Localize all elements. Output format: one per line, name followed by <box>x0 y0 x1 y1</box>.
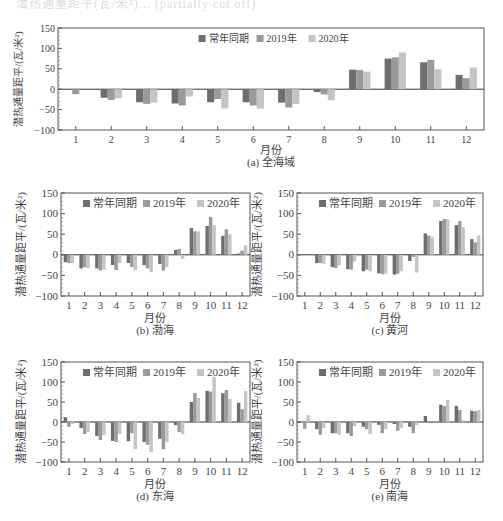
bar <box>177 249 180 255</box>
bar <box>162 422 165 449</box>
bar <box>149 255 152 272</box>
bar <box>303 422 306 429</box>
y-tick-label: 0 <box>289 248 295 260</box>
legend-swatch <box>143 200 150 207</box>
bar <box>212 377 215 422</box>
bar <box>181 422 184 434</box>
bar <box>365 422 368 429</box>
x-tick-label: 3 <box>144 134 149 145</box>
legend-swatch <box>199 35 206 42</box>
bar <box>205 226 208 255</box>
bar <box>353 422 356 426</box>
bar <box>446 219 449 254</box>
bar <box>396 255 399 274</box>
bar <box>225 390 228 422</box>
bar <box>314 89 321 92</box>
y-tick-label: 150 <box>42 187 59 199</box>
bar <box>237 254 240 255</box>
y-tick-label: 150 <box>278 187 295 199</box>
bar <box>136 89 143 102</box>
x-tick-label: 1 <box>302 465 308 477</box>
x-tick-label: 10 <box>439 465 451 477</box>
legend-label: 2020年 <box>443 196 476 209</box>
bar <box>244 391 247 422</box>
bar <box>306 415 309 422</box>
bar <box>385 59 392 90</box>
bar <box>415 422 418 425</box>
bar <box>461 420 464 422</box>
bar <box>99 422 102 440</box>
bar <box>237 403 240 422</box>
bar <box>118 422 121 434</box>
bar <box>458 410 461 422</box>
bar <box>79 422 82 428</box>
bar <box>315 422 318 429</box>
bar <box>470 68 477 90</box>
bar <box>368 255 371 271</box>
y-tick-label: −100 <box>271 456 294 468</box>
x-tick-label: 1 <box>73 134 78 145</box>
legend-label: 常年同期 <box>93 196 137 209</box>
bar <box>174 250 177 255</box>
x-tick-label: 2 <box>318 465 324 477</box>
bar <box>278 89 285 102</box>
bar <box>99 255 102 271</box>
bar <box>86 422 89 432</box>
x-tick-label: 8 <box>411 299 417 311</box>
bar <box>412 255 415 257</box>
y-tick-label: 150 <box>42 356 59 368</box>
bar <box>114 422 117 442</box>
bar <box>346 255 349 269</box>
bar <box>228 234 231 255</box>
y-axis-label: 潜热通量距平/(瓦/米²) <box>14 359 28 464</box>
bar <box>193 393 196 422</box>
bar <box>64 255 67 262</box>
y-tick-label: −50 <box>41 269 59 281</box>
legend-swatch <box>379 369 386 376</box>
bar <box>79 255 82 269</box>
bar <box>179 89 186 105</box>
y-tick-label: −50 <box>39 104 55 115</box>
legend-swatch <box>433 200 440 207</box>
bar <box>443 219 446 255</box>
bar <box>415 255 418 273</box>
bar <box>130 255 133 267</box>
bar <box>83 255 86 267</box>
bar <box>221 393 224 422</box>
bar <box>377 422 380 425</box>
bar <box>328 89 335 100</box>
bar <box>228 399 231 422</box>
bar <box>225 229 228 255</box>
x-tick-label: 2 <box>82 465 88 477</box>
bar <box>393 422 396 424</box>
bar <box>67 255 70 263</box>
bar <box>331 255 334 267</box>
bar <box>334 255 337 268</box>
bar <box>384 255 387 274</box>
bar <box>115 89 122 98</box>
bar <box>461 227 464 255</box>
bar <box>190 402 193 422</box>
bar <box>430 237 433 255</box>
legend-swatch <box>319 369 326 376</box>
bar <box>83 422 86 434</box>
legend-swatch <box>83 200 90 207</box>
legend-label: 2019年 <box>389 196 422 209</box>
bar <box>146 255 149 269</box>
x-tick-label: 1 <box>66 299 72 311</box>
bar <box>130 422 133 433</box>
bar <box>127 422 130 441</box>
bar <box>368 422 371 434</box>
x-tick-label: 12 <box>470 465 481 477</box>
x-tick-label: 8 <box>176 465 182 477</box>
legend-swatch <box>197 369 204 376</box>
legend-label: 2020年 <box>319 32 349 44</box>
y-tick-label: 100 <box>42 207 59 219</box>
bar <box>221 89 228 108</box>
bar <box>177 422 180 432</box>
bar <box>350 255 353 270</box>
bar <box>190 228 193 255</box>
bar <box>142 255 145 265</box>
x-tick-label: 4 <box>349 465 355 477</box>
bar <box>111 255 114 265</box>
